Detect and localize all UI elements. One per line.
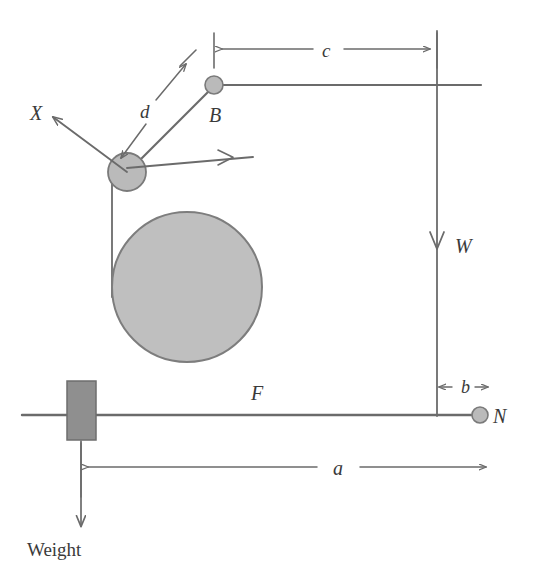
dim-d-line-upper [156,64,186,100]
label-dim-d: d [140,101,150,122]
drum-circle [112,212,262,362]
label-w: W [455,235,474,257]
node-b [205,76,223,94]
mechanics-diagram: X B N W F c d b a Weight [0,0,539,567]
label-dim-b: b [461,377,470,397]
force-arrow-x [53,117,127,172]
force-arrowhead-horizontal-joint [218,150,233,165]
dim-d-tick [180,50,196,66]
label-b: B [209,104,221,126]
label-f: F [250,382,264,404]
label-n: N [492,405,508,427]
label-dim-a: a [333,457,343,479]
label-weight: Weight [27,539,82,560]
node-n [472,407,488,423]
weight-block [67,381,96,440]
label-x: X [29,102,43,124]
force-arrow-horizontal-joint [127,157,253,168]
diagram-canvas: X B N W F c d b a Weight [0,0,539,567]
label-dim-c: c [322,40,331,61]
dim-d-line-lower [121,124,146,158]
